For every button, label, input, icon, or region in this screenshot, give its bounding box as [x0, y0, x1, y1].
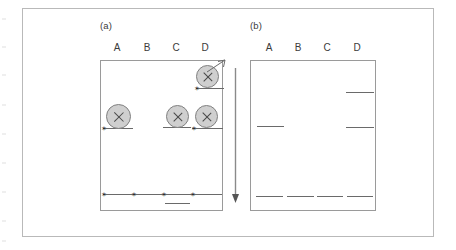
panel-b-band-D-top: [346, 92, 374, 93]
panel-b-gel-box: [250, 60, 376, 211]
panel-a-band-D-top: [196, 88, 224, 89]
figure-root: (a) A B C D ✶ ✶ ✶ ✶ ✶ ✶ ✶ (b) A B C D: [0, 0, 456, 250]
panel-a-lane-label-A: A: [110, 42, 124, 53]
panel-a-star-C-bottom: ✶: [160, 191, 167, 198]
scan-artifact: [2, 240, 6, 242]
panel-a-caption: (a): [100, 20, 112, 31]
scan-artifact: [2, 46, 6, 48]
spot-pointer-icon: [205, 58, 231, 76]
panel-a-star-A-middle: ✶: [100, 125, 107, 132]
panel-b-lane-label-A: A: [262, 42, 276, 53]
panel-b-caption: (b): [250, 20, 262, 31]
panel-a-star-B-bottom: ✶: [130, 191, 137, 198]
scan-artifact: [2, 104, 6, 106]
panel-a-star-A-bottom: ✶: [100, 191, 107, 198]
scan-artifact: [2, 18, 6, 20]
panel-a-spot-D-middle: [195, 105, 218, 128]
scan-artifact: [2, 133, 6, 135]
panel-a-band-C-bottom: [163, 194, 192, 195]
panel-a-star-D-top: ✶: [193, 85, 200, 92]
panel-b-lane-label-B: B: [291, 42, 305, 53]
panel-a-star-D-middle: ✶: [190, 125, 197, 132]
panel-a-band-C-below-bottom: [165, 203, 190, 204]
scan-artifact: [2, 191, 6, 193]
panel-b-band-D-middle: [346, 127, 374, 128]
panel-b-lane-label-D: D: [350, 42, 364, 53]
panel-b-band-D-bottom: [347, 196, 373, 197]
panel-a-band-D-bottom: [192, 194, 222, 195]
panel-a-lane-label-C: C: [169, 42, 183, 53]
panel-b-lane-label-C: C: [320, 42, 334, 53]
panel-b-band-C-bottom: [317, 196, 343, 197]
scan-artifact: [2, 220, 6, 222]
panel-b-band-A-middle: [257, 126, 284, 127]
process-arrow-down-icon: [229, 68, 242, 204]
panel-a-lane-label-B: B: [140, 42, 154, 53]
scan-artifact: [2, 74, 6, 76]
panel-a-lane-label-D: D: [198, 42, 212, 53]
panel-a-band-B-bottom: [134, 194, 163, 195]
panel-b-band-B-bottom: [287, 196, 314, 197]
panel-a-spot-C-middle: [166, 105, 189, 128]
panel-a-star-D-bottom: ✶: [189, 191, 196, 198]
scan-artifact: [2, 162, 6, 164]
panel-b-band-A-bottom: [256, 196, 283, 197]
panel-a-spot-A-middle: [106, 104, 131, 129]
